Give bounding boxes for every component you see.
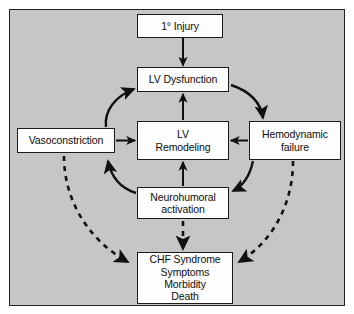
node-primary-injury-line-1: 1° Injury xyxy=(161,20,199,32)
node-neurohumoral-activation-line-1: Neurohumoral xyxy=(150,191,215,203)
node-lv-remodeling[interactable]: LV Remodeling xyxy=(137,121,229,160)
node-hemodynamic-failure-line-2: failure xyxy=(281,141,309,153)
node-neurohumoral-activation[interactable]: Neurohumoral activation xyxy=(137,187,229,219)
node-chf-syndrome-line-4: Death xyxy=(171,290,199,302)
node-primary-injury[interactable]: 1° Injury xyxy=(137,14,223,38)
node-lv-remodeling-line-2: Remodeling xyxy=(155,141,210,153)
node-vasoconstriction[interactable]: Vasoconstriction xyxy=(17,128,115,153)
node-chf-syndrome-line-2: Symptoms xyxy=(161,266,210,278)
node-lv-dysfunction-line-1: LV Dysfunction xyxy=(149,73,217,85)
node-hemodynamic-failure-line-1: Hemodynamic xyxy=(262,128,328,140)
node-vasoconstriction-line-1: Vasoconstriction xyxy=(29,134,104,146)
node-hemodynamic-failure[interactable]: Hemodynamic failure xyxy=(249,121,341,160)
node-lv-remodeling-line-1: LV xyxy=(177,128,189,140)
node-lv-dysfunction[interactable]: LV Dysfunction xyxy=(137,67,229,92)
node-neurohumoral-activation-line-2: activation xyxy=(161,203,204,215)
node-chf-syndrome-line-1: CHF Syndrome xyxy=(149,253,220,265)
node-chf-syndrome[interactable]: CHF Syndrome Symptoms Morbidity Death xyxy=(137,252,233,304)
figure-canvas: 1° Injury LV Dysfunction Vasoconstrictio… xyxy=(0,0,354,314)
node-chf-syndrome-line-3: Morbidity xyxy=(164,278,206,290)
